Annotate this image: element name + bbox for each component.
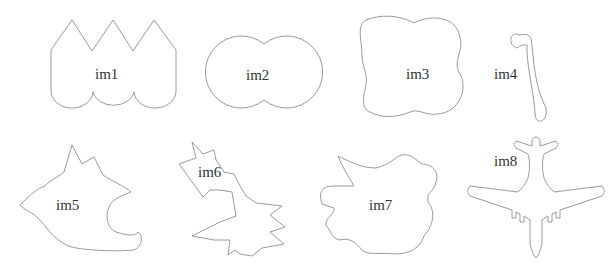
shape-im7: im7 (321, 155, 437, 254)
shape-im1: im1 (51, 20, 176, 108)
shape-figure: im1 im2 im3 im4 im5 im6 im7 im8 (0, 0, 612, 275)
im1-label: im1 (95, 66, 118, 82)
im6-outline (179, 142, 285, 256)
shape-im6: im6 (179, 142, 285, 256)
im2-label: im2 (246, 67, 269, 83)
im6-label: im6 (198, 164, 222, 180)
shape-im8: im8 (468, 137, 605, 258)
im8-outline (468, 137, 605, 258)
im7-label: im7 (369, 197, 393, 213)
im4-label: im4 (494, 66, 518, 82)
shape-im5: im5 (20, 145, 141, 251)
shape-im4: im4 (494, 34, 546, 121)
shape-im2: im2 (205, 36, 322, 108)
im3-label: im3 (406, 66, 429, 82)
shape-im3: im3 (360, 16, 463, 116)
im1-outline (51, 20, 176, 108)
im5-label: im5 (56, 197, 79, 213)
im5-outline (20, 145, 141, 251)
im8-label: im8 (494, 153, 517, 169)
